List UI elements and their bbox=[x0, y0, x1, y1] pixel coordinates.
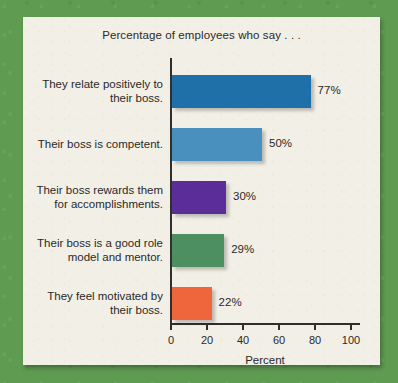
bar-value-label: 29% bbox=[231, 243, 254, 255]
x-tick bbox=[206, 323, 208, 330]
x-tick bbox=[278, 323, 280, 330]
x-tick-label: 20 bbox=[201, 334, 213, 346]
bar[interactable] bbox=[172, 128, 262, 161]
category-label: Their boss is competent. bbox=[13, 138, 163, 152]
bar-value-label: 22% bbox=[219, 296, 242, 308]
x-tick bbox=[314, 323, 316, 330]
category-label: Their boss is a good rolemodel and mento… bbox=[13, 237, 163, 264]
chart-title: Percentage of employees who say . . . bbox=[23, 29, 380, 41]
x-tick bbox=[170, 323, 172, 330]
bar-value-label: 50% bbox=[269, 137, 292, 149]
x-axis-label: Percent bbox=[170, 354, 360, 366]
bar[interactable] bbox=[172, 234, 224, 267]
bar[interactable] bbox=[172, 287, 212, 320]
x-tick-label: 60 bbox=[273, 334, 285, 346]
bar[interactable] bbox=[172, 75, 311, 108]
bar[interactable] bbox=[172, 181, 226, 214]
x-axis-line bbox=[170, 323, 360, 325]
category-label: They relate positively totheir boss. bbox=[13, 78, 163, 105]
chart-panel: Percentage of employees who say . . . Th… bbox=[23, 17, 380, 365]
plot-area: 77%50%30%29%22% 020406080100 Percent bbox=[170, 58, 380, 323]
x-tick-label: 80 bbox=[309, 334, 321, 346]
bar-value-label: 77% bbox=[318, 84, 341, 96]
figure-mat: Percentage of employees who say . . . Th… bbox=[0, 0, 398, 383]
x-tick-label: 100 bbox=[342, 334, 360, 346]
x-tick-label: 40 bbox=[237, 334, 249, 346]
category-label: Their boss rewards themfor accomplishmen… bbox=[13, 184, 163, 211]
x-tick bbox=[242, 323, 244, 330]
category-label: They feel motivated bytheir boss. bbox=[13, 290, 163, 317]
x-tick-label: 0 bbox=[168, 334, 174, 346]
x-tick bbox=[350, 323, 352, 330]
bar-value-label: 30% bbox=[233, 190, 256, 202]
